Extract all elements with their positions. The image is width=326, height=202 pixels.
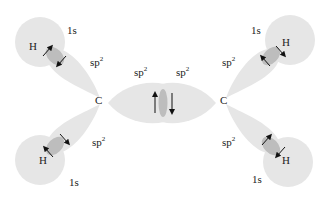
bond-bottom-right: H 1s sp2 [222,104,313,187]
bond-top-right: H 1s sp2 [222,15,315,98]
label-1s-top-left: 1s [67,24,77,36]
hydrogen-top-right: H [282,36,290,48]
hydrogen-bottom-left: H [39,154,47,166]
label-sp2-bottom-left: sp2 [92,135,106,148]
bond-top-left: H 1s sp2 [15,17,104,98]
label-1s-bottom-right: 1s [252,173,262,185]
label-sp2-center-left: sp2 [134,65,148,78]
hydrogen-bottom-right: H [282,154,290,166]
label-1s-bottom-left: 1s [69,176,79,188]
label-sp2-center-right: sp2 [176,65,190,78]
carbon-left: C [95,94,102,106]
orbital-diagram: H 1s sp2 H 1s sp2 C sp2 sp2 C H 1s sp2 [0,0,326,202]
overlap-center [159,89,168,117]
label-1s-top-right: 1s [251,24,261,36]
bond-center: sp2 sp2 [108,65,216,123]
label-sp2-top-right: sp2 [222,55,236,68]
label-sp2-bottom-right: sp2 [222,135,236,148]
label-sp2-top-left: sp2 [90,55,104,68]
hydrogen-top-left: H [29,40,37,52]
bond-bottom-left: H 1s sp2 [15,104,106,188]
